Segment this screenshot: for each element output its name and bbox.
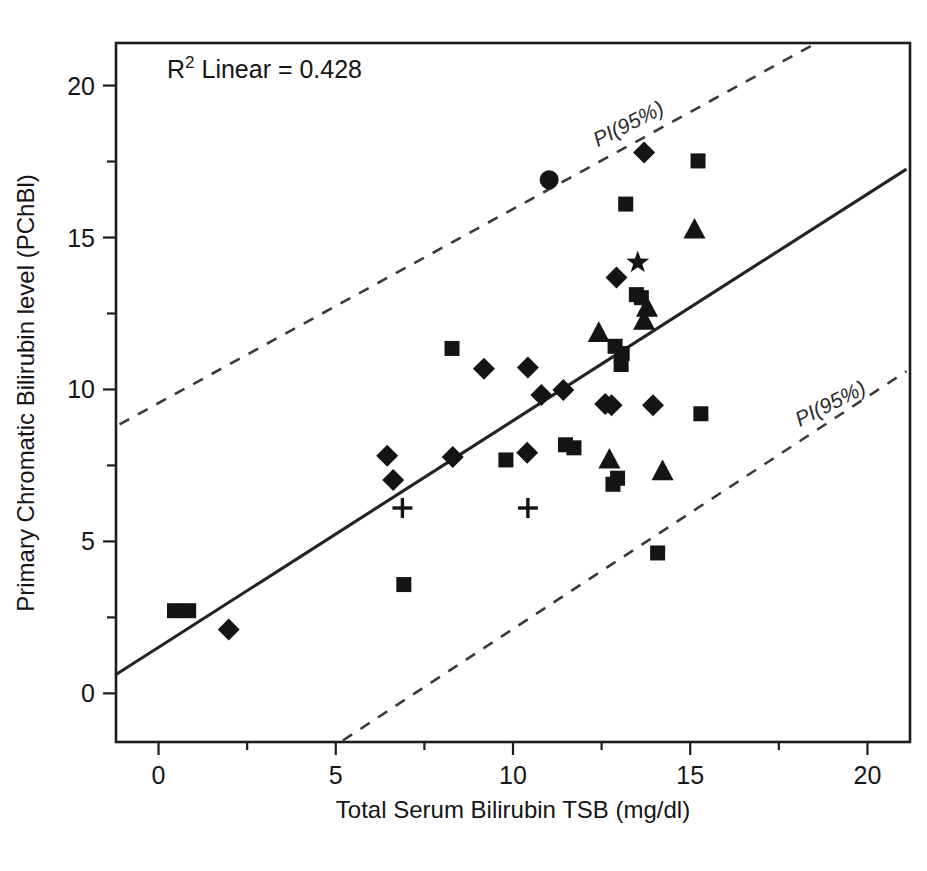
x-tick-label: 10 [499,761,527,789]
point-square [396,577,411,592]
y-tick-label: 5 [81,527,95,555]
pi-upper-label: PI(95%) [589,96,667,151]
x-tick-label: 15 [676,761,704,789]
y-tick-label: 20 [67,72,95,100]
point-triangle [652,460,674,481]
point-diamond [517,357,539,379]
y-axis-tick-labels: 05101520 [67,72,95,708]
point-square [614,357,629,372]
point-star [626,250,649,272]
plot-canvas: 05101520 05101520 PI(95%)PI(95%) R2 Line… [0,0,927,871]
point-square [650,545,665,560]
x-tick-label: 0 [152,761,166,789]
point-diamond [516,442,538,464]
y-tick-label: 0 [81,679,95,707]
point-diamond [606,267,628,289]
scatter-plot-figure: 05101520 05101520 PI(95%)PI(95%) R2 Line… [0,0,927,871]
prediction-interval-lines [120,46,907,740]
y-axis-title: Primary Chromatic Bilirubin level (PChBl… [12,174,39,611]
x-axis-tick-labels: 05101520 [152,761,882,789]
point-diamond [376,445,398,467]
point-triangle [598,448,620,469]
point-circle [540,170,559,189]
pi-upper [120,46,811,424]
point-diamond [530,384,552,406]
point-square [566,440,581,455]
data-points [167,141,708,640]
point-square [167,603,182,618]
point-plus [518,498,538,518]
y-tick-label: 15 [67,224,95,252]
prediction-interval-labels: PI(95%)PI(95%) [589,96,869,431]
plot-frame [116,43,910,742]
y-tick-label: 10 [67,375,95,403]
point-diamond [382,469,404,491]
point-diamond [218,619,240,641]
y-axis-ticks [103,86,116,694]
point-diamond [473,358,495,380]
point-plus [392,498,412,518]
x-tick-label: 5 [329,761,343,789]
pi-lower [343,371,907,740]
point-triangle [683,218,705,239]
r-squared-annotation: R2 Linear = 0.428 [167,53,362,83]
regression-fit-line [116,169,906,674]
point-square [498,452,513,467]
point-square [618,197,633,212]
point-diamond [633,141,655,163]
x-axis-ticks [159,742,868,755]
point-square [445,341,460,356]
x-tick-label: 20 [854,761,882,789]
point-diamond [642,394,664,416]
point-square [610,471,625,486]
point-square [693,406,708,421]
x-axis-title: Total Serum Bilirubin TSB (mg/dl) [336,796,690,823]
linear-fit [116,169,906,674]
point-triangle [588,321,610,342]
point-square [691,153,706,168]
point-square [181,603,196,618]
